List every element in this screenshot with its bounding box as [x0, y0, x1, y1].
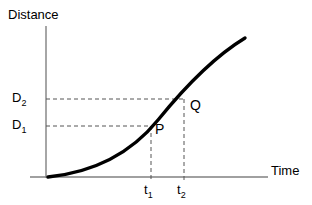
x-axis-title: Time: [271, 164, 299, 177]
y-axis-title: Distance: [8, 8, 59, 21]
x-tick-t1-subscript: 1: [148, 190, 153, 200]
y-tick-d1-subscript: 1: [21, 125, 26, 135]
point-label-p: P: [155, 122, 164, 136]
y-tick-label-d2: D2: [12, 91, 26, 104]
y-tick-d2-subscript: 2: [21, 98, 26, 108]
distance-time-curve: [48, 38, 245, 177]
plot-area: [0, 0, 312, 205]
y-tick-d1-base: D: [12, 117, 21, 132]
y-tick-d2-base: D: [12, 90, 21, 105]
x-tick-t2-subscript: 2: [181, 190, 186, 200]
x-tick-label-t1: t1: [144, 183, 153, 196]
x-tick-label-t2: t2: [177, 183, 186, 196]
y-tick-label-d1: D1: [12, 118, 26, 131]
point-label-q: Q: [190, 98, 201, 112]
distance-time-graph: Distance Time D2 D1 t1 t2 P Q: [0, 0, 312, 205]
